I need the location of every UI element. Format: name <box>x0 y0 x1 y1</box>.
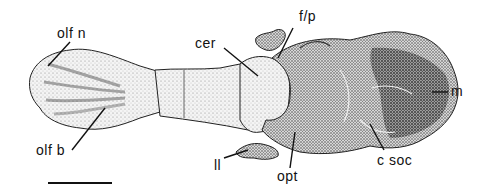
label-opt: opt <box>277 169 298 183</box>
label-c-soc: c soc <box>377 153 412 167</box>
brain-mass <box>262 32 458 154</box>
label-olf-n: olf n <box>57 26 86 40</box>
label-f-p: f/p <box>299 9 316 23</box>
label-olf-b: olf b <box>36 143 65 157</box>
label-cer: cer <box>195 36 216 50</box>
pineal-protrusion <box>256 29 286 50</box>
label-ll: ll <box>214 158 221 172</box>
olfactory-bulb <box>29 49 160 129</box>
label-m: m <box>451 84 463 98</box>
